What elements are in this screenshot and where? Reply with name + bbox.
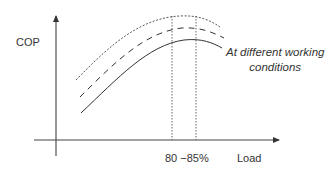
cop-load-diagram	[0, 0, 333, 173]
x-axis-label: Load	[237, 152, 261, 164]
annotation-line-1: At different working	[226, 45, 324, 60]
annotation: At different working conditions	[226, 45, 324, 75]
annotation-line-2: conditions	[226, 60, 324, 75]
curve-dashed	[80, 28, 224, 97]
curve-solid	[81, 40, 222, 113]
x-band-label: 80 −85%	[165, 152, 209, 164]
y-axis-label: COP	[16, 36, 40, 48]
curve-dotted	[76, 16, 220, 80]
